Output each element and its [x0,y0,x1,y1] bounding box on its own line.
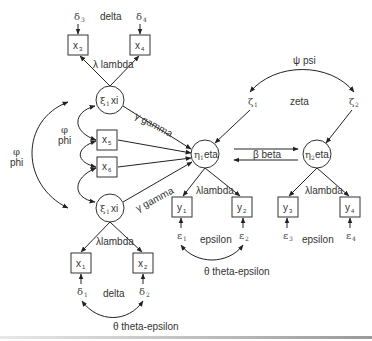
xi1-top-latent: ξ 1 xi [96,86,124,114]
svg-text:phi: phi [10,157,23,168]
eta1-latent: η 1 eta [191,140,219,168]
lambda-eta2-label: λlambda [305,185,343,196]
svg-text:δ: δ [136,11,142,22]
y3-indicator: y 3 [278,197,298,217]
svg-text:x: x [102,161,107,172]
svg-text:1: 1 [106,100,110,107]
zeta-1-error: ζ 1 [215,96,258,143]
y2-indicator: y 2 [232,197,252,217]
svg-text:ε: ε [239,230,244,241]
epsilon-4-error: ε 4 [346,218,356,242]
x2-indicator: x 2 [133,253,153,273]
gamma-top-label: γ gamma [133,110,175,139]
svg-text:x: x [76,258,81,269]
svg-text:2: 2 [245,235,249,242]
theta-epsilon-label: θ theta-epsilon [204,266,270,277]
psi-label: ψ psi [293,55,316,66]
svg-text:3: 3 [289,235,293,242]
y1-indicator: y 1 [172,197,192,217]
sem-diagram: δ 3 delta δ 4 x 3 x 4 λ lambda ξ 1 xi x … [0,0,372,341]
delta-top-label: delta [100,11,122,22]
svg-text:x: x [135,40,140,51]
svg-text:y: y [345,202,350,213]
bottom-divider [0,336,372,339]
svg-text:y: y [237,202,242,213]
gamma-bottom-label: γ gamma [134,185,176,214]
svg-text:y: y [283,202,288,213]
svg-text:4: 4 [352,235,356,242]
svg-text:1: 1 [106,208,110,215]
svg-text:x: x [102,134,107,145]
beta-label: β beta [253,149,281,160]
lambda-bottom-label: λlambda [96,236,134,247]
svg-text:eta: eta [204,149,218,160]
svg-text:ε: ε [283,230,288,241]
x3-indicator: x 3 [68,35,88,55]
delta-bottom-label: delta [103,288,125,299]
svg-text:x: x [73,40,78,51]
zeta-2-error: ζ 2 [326,96,359,143]
x4-indicator: x 4 [130,35,150,55]
svg-text:eta: eta [315,149,329,160]
svg-text:φ: φ [61,124,68,135]
svg-text:1: 1 [183,235,187,242]
svg-text:δ: δ [139,286,145,297]
svg-text:ε: ε [346,230,351,241]
svg-text:2: 2 [355,101,359,108]
svg-text:xi: xi [111,95,118,106]
phi-outer-label: φ phi [10,146,23,168]
delta-2-error: δ 2 [139,274,150,298]
y4-indicator: y 4 [340,197,360,217]
epsilon-1-error: ε 1 [177,218,187,242]
svg-text:phi: phi [58,135,71,146]
svg-text:1: 1 [254,101,258,108]
svg-text:ε: ε [177,230,182,241]
epsilon-left-label: epsilon [200,234,232,245]
x1-indicator: x 1 [71,253,91,273]
svg-text:2: 2 [146,291,150,298]
xi1-bottom-latent: ξ 1 xi [96,194,124,222]
theta-delta-label: θ theta-epsilon [113,321,179,332]
svg-text:x: x [138,258,143,269]
lambda-top-label: λ lambda [93,59,134,70]
epsilon-right-label: epsilon [302,234,334,245]
svg-text:xi: xi [111,203,118,214]
epsilon-3-error: ε 3 [283,218,293,242]
phi-inner-label: φ phi [58,124,71,146]
epsilon-2-error: ε 2 [239,218,249,242]
lambda-eta1-label: λlambda [196,185,234,196]
svg-text:δ: δ [74,11,80,22]
zeta-label: zeta [290,96,309,107]
x5-indicator: x 5 [97,130,117,150]
svg-text:y: y [177,202,182,213]
delta-4-error: δ 4 [136,11,147,34]
x6-indicator: x 6 [97,157,117,177]
delta-3-error: δ 3 [74,11,85,34]
svg-text:3: 3 [81,16,85,23]
svg-text:1: 1 [84,291,88,298]
delta-1-error: δ 1 [77,274,88,298]
svg-text:δ: δ [77,286,83,297]
svg-text:φ: φ [13,146,20,157]
svg-text:4: 4 [143,16,147,23]
eta2-latent: η 2 eta [303,140,331,168]
